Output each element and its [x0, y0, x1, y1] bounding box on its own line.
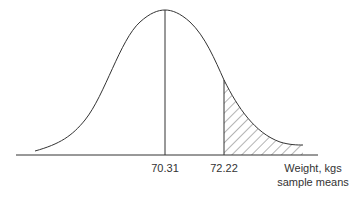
mean-label: 70.31 — [151, 162, 179, 174]
axis-label-line1: Weight, kgs — [284, 162, 341, 174]
bell-curve — [35, 10, 303, 151]
axis-label-line2: sample means — [277, 176, 349, 188]
critical-value-label: 72.22 — [210, 162, 238, 174]
shaded-tail-region — [224, 80, 303, 155]
